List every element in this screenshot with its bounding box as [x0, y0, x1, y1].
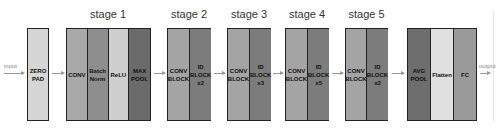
stage-1-max-pool: MAX POOL	[129, 29, 150, 120]
stage-5-id-block: ID BLOCK x2	[367, 29, 388, 120]
stage-3-label: stage 3	[227, 8, 271, 20]
zero-pad-block: ZERO PAD	[27, 28, 49, 121]
flatten-layer: Flatten	[431, 29, 454, 120]
arrow-to-stage-1	[52, 73, 64, 74]
stage-4-conv-block: CONV BLOCK	[286, 29, 308, 120]
stage-5-label: stage 5	[345, 8, 388, 20]
stage-2-group: CONV BLOCK ID BLOCK x2	[167, 28, 211, 121]
arrow-to-stage-4	[273, 73, 283, 74]
stage-4-group: CONV BLOCK ID BLOCK x5	[285, 28, 329, 121]
stage-1-relu: ReLU	[109, 29, 130, 120]
stage-1-batch-norm: Batch Norm	[88, 29, 109, 120]
head-group: AVG POOL Flatten FC	[407, 28, 477, 121]
fc-layer: FC	[454, 29, 476, 120]
input-arrow	[4, 73, 24, 74]
stage-3-group: CONV BLOCK ID BLOCK x3	[227, 28, 271, 121]
stage-4-id-block: ID BLOCK x5	[308, 29, 329, 120]
arrow-to-stage-2	[154, 73, 165, 74]
stage-2-conv-block: CONV BLOCK	[168, 29, 190, 120]
stage-3-id-block: ID BLOCK x3	[250, 29, 271, 120]
arrow-to-head	[392, 73, 404, 74]
zero-pad-layer: ZERO PAD	[28, 29, 48, 120]
stage-5-conv-block: CONV BLOCK	[346, 29, 367, 120]
input-label: input	[4, 63, 17, 69]
arrow-to-stage-5	[332, 73, 343, 74]
output-label: output	[479, 63, 496, 69]
stage-4-label: stage 4	[285, 8, 329, 20]
stage-3-conv-block: CONV BLOCK	[228, 29, 250, 120]
stage-1-conv: CONV	[67, 29, 88, 120]
stage-2-label: stage 2	[167, 8, 211, 20]
avg-pool-layer: AVG POOL	[408, 29, 431, 120]
stage-1-label: stage 1	[66, 8, 150, 20]
stage-1-group: CONV Batch Norm ReLU MAX POOL	[66, 28, 151, 121]
output-arrow	[480, 73, 490, 74]
arrow-to-stage-3	[214, 73, 225, 74]
stage-5-group: CONV BLOCK ID BLOCK x2	[345, 28, 388, 121]
stage-2-id-block: ID BLOCK x2	[190, 29, 211, 120]
